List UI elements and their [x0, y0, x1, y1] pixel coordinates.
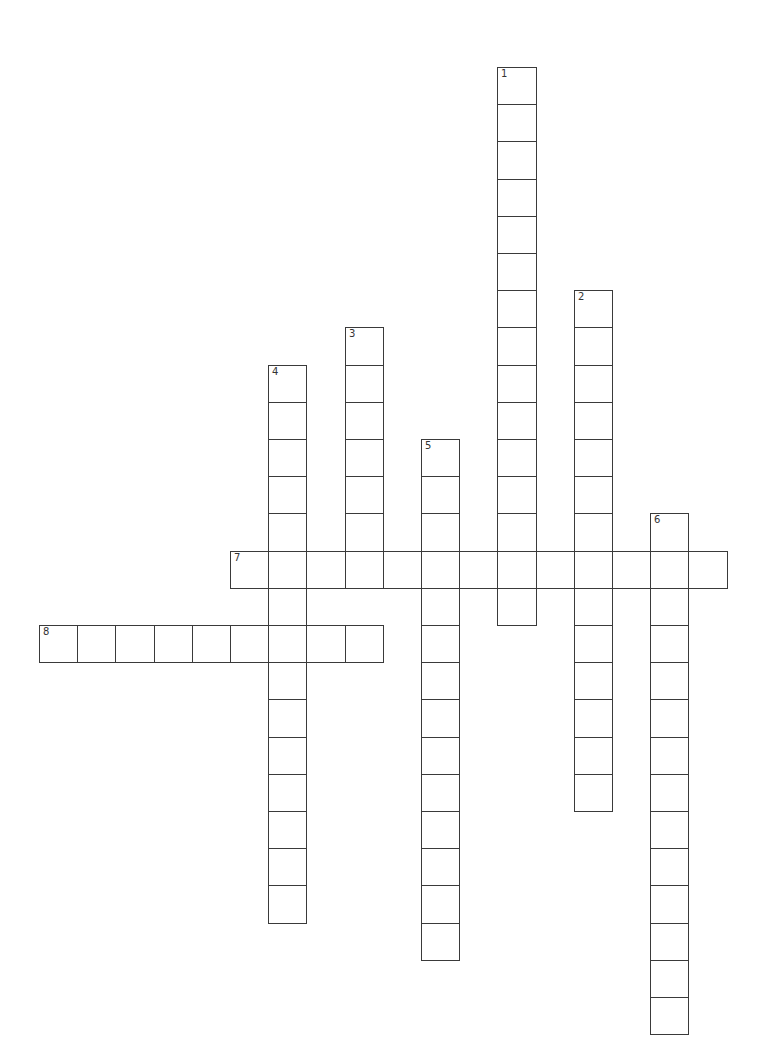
- crossword-cell[interactable]: [268, 699, 307, 738]
- crossword-cell[interactable]: [345, 551, 384, 589]
- crossword-cell[interactable]: [421, 662, 460, 700]
- crossword-cell[interactable]: [497, 513, 537, 552]
- crossword-cell[interactable]: [497, 253, 537, 291]
- crossword-cell[interactable]: [574, 365, 613, 403]
- crossword-cell[interactable]: [421, 551, 460, 589]
- crossword-cell[interactable]: [650, 699, 689, 738]
- crossword-cell[interactable]: [421, 699, 460, 738]
- crossword-cell[interactable]: [421, 811, 460, 849]
- clue-number: 1: [501, 69, 507, 79]
- crossword-cell[interactable]: [497, 216, 537, 254]
- crossword-cell[interactable]: [459, 551, 498, 589]
- crossword-cell[interactable]: 5: [421, 439, 460, 477]
- crossword-cell[interactable]: [497, 365, 537, 403]
- crossword-cell[interactable]: 3: [345, 327, 384, 366]
- crossword-cell[interactable]: [268, 588, 307, 626]
- crossword-cell[interactable]: [421, 885, 460, 924]
- crossword-cell[interactable]: [421, 588, 460, 626]
- crossword-cell[interactable]: [268, 848, 307, 886]
- crossword-cell[interactable]: [345, 625, 384, 663]
- crossword-cell[interactable]: [345, 365, 384, 403]
- crossword-cell[interactable]: [268, 811, 307, 849]
- crossword-cell[interactable]: [421, 737, 460, 775]
- crossword-cell[interactable]: [574, 402, 613, 440]
- crossword-cell[interactable]: [497, 104, 537, 142]
- crossword-cell[interactable]: [268, 625, 307, 663]
- crossword-cell[interactable]: [497, 179, 537, 217]
- crossword-cell[interactable]: [574, 774, 613, 812]
- crossword-cell[interactable]: [574, 737, 613, 775]
- clue-number: 8: [43, 627, 49, 637]
- crossword-cell[interactable]: 6: [650, 513, 689, 552]
- crossword-cell[interactable]: [650, 662, 689, 700]
- crossword-cell[interactable]: [345, 476, 384, 514]
- crossword-cell[interactable]: [268, 662, 307, 700]
- crossword-cell[interactable]: [306, 551, 346, 589]
- crossword-cell[interactable]: [230, 625, 269, 663]
- crossword-cell[interactable]: [268, 737, 307, 775]
- crossword-cell[interactable]: [650, 885, 689, 924]
- crossword-cell[interactable]: [497, 402, 537, 440]
- crossword-cell[interactable]: [497, 290, 537, 328]
- crossword-cell[interactable]: [268, 885, 307, 924]
- crossword-cell[interactable]: [574, 439, 613, 477]
- crossword-cell[interactable]: [574, 513, 613, 552]
- crossword-cell[interactable]: [650, 960, 689, 998]
- crossword-cell[interactable]: [536, 551, 575, 589]
- crossword-cell[interactable]: [574, 699, 613, 738]
- crossword-cell[interactable]: [574, 476, 613, 514]
- crossword-cell[interactable]: 7: [230, 551, 269, 589]
- crossword-cell[interactable]: 1: [497, 67, 537, 105]
- crossword-cell[interactable]: [268, 476, 307, 514]
- crossword-cell[interactable]: [421, 923, 460, 961]
- crossword-grid: 12345678: [0, 0, 772, 1045]
- crossword-cell[interactable]: 4: [268, 365, 307, 403]
- clue-number: 3: [349, 329, 355, 339]
- crossword-cell[interactable]: [345, 439, 384, 477]
- crossword-cell[interactable]: [650, 923, 689, 961]
- crossword-cell[interactable]: [650, 588, 689, 626]
- crossword-cell[interactable]: [497, 327, 537, 366]
- crossword-cell[interactable]: [77, 625, 116, 663]
- crossword-cell[interactable]: [383, 551, 422, 589]
- crossword-cell[interactable]: [115, 625, 155, 663]
- crossword-cell[interactable]: [650, 737, 689, 775]
- crossword-cell[interactable]: [688, 551, 728, 589]
- crossword-cell[interactable]: 8: [39, 625, 78, 663]
- crossword-cell[interactable]: [268, 439, 307, 477]
- crossword-cell[interactable]: [574, 625, 613, 663]
- clue-number: 7: [234, 553, 240, 563]
- crossword-cell[interactable]: [650, 625, 689, 663]
- clue-number: 2: [578, 292, 584, 302]
- crossword-cell[interactable]: [268, 402, 307, 440]
- crossword-cell[interactable]: 2: [574, 290, 613, 328]
- crossword-cell[interactable]: [306, 625, 346, 663]
- crossword-cell[interactable]: [574, 588, 613, 626]
- crossword-cell[interactable]: [154, 625, 193, 663]
- crossword-cell[interactable]: [421, 625, 460, 663]
- crossword-cell[interactable]: [650, 811, 689, 849]
- crossword-cell[interactable]: [497, 588, 537, 626]
- crossword-cell[interactable]: [574, 551, 613, 589]
- crossword-cell[interactable]: [497, 141, 537, 180]
- crossword-cell[interactable]: [497, 551, 537, 589]
- crossword-cell[interactable]: [650, 997, 689, 1035]
- crossword-cell[interactable]: [345, 402, 384, 440]
- crossword-cell[interactable]: [268, 513, 307, 552]
- crossword-cell[interactable]: [345, 513, 384, 552]
- crossword-cell[interactable]: [268, 551, 307, 589]
- crossword-cell[interactable]: [497, 476, 537, 514]
- crossword-cell[interactable]: [421, 476, 460, 514]
- crossword-cell[interactable]: [268, 774, 307, 812]
- crossword-cell[interactable]: [650, 774, 689, 812]
- crossword-cell[interactable]: [650, 848, 689, 886]
- crossword-cell[interactable]: [612, 551, 651, 589]
- crossword-cell[interactable]: [421, 848, 460, 886]
- crossword-cell[interactable]: [574, 662, 613, 700]
- crossword-cell[interactable]: [574, 327, 613, 366]
- crossword-cell[interactable]: [421, 513, 460, 552]
- crossword-cell[interactable]: [421, 774, 460, 812]
- crossword-cell[interactable]: [497, 439, 537, 477]
- crossword-cell[interactable]: [192, 625, 231, 663]
- crossword-cell[interactable]: [650, 551, 689, 589]
